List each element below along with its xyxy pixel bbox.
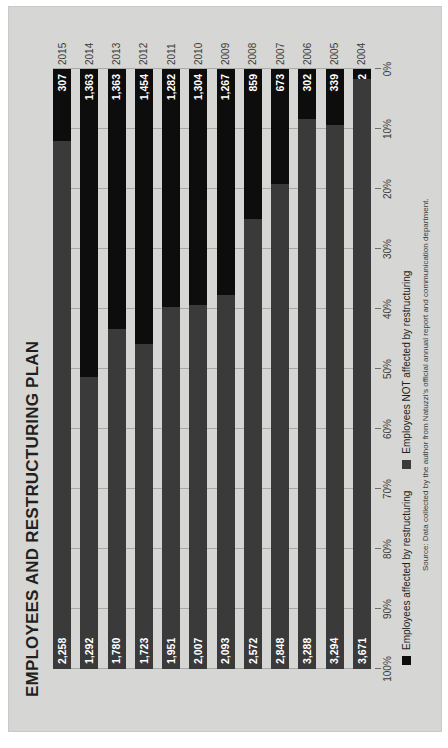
bar-segment-not-affected: 1,292 (80, 377, 98, 669)
year-label: 2014 (80, 31, 98, 65)
axis-tick-label: 50% (382, 359, 393, 379)
legend: Employees affected by restructuringEmplo… (401, 271, 412, 665)
bar-row: 1,2921,363 (80, 69, 98, 669)
bar-segment-not-affected: 3,294 (326, 125, 344, 669)
bar-value-label: 2,093 (220, 638, 231, 664)
bar-rows: 2,2583071,2921,3631,7801,3631,7231,4541,… (53, 69, 371, 669)
bar-row: 3,294339 (326, 69, 344, 669)
bar-segment-not-affected: 2,258 (53, 141, 71, 669)
axis-tick (375, 188, 381, 189)
chart-page: EMPLOYEES AND RESTRUCTURING PLAN 2,25830… (0, 0, 448, 748)
bar-row: 2,258307 (53, 69, 71, 669)
bar-value-label: 1,363 (84, 74, 95, 100)
bar-row: 2,572859 (244, 69, 262, 669)
bar-segment-not-affected: 3,288 (298, 119, 316, 669)
year-label: 2005 (326, 31, 344, 65)
axis-tick (375, 488, 381, 489)
year-label: 2008 (244, 31, 262, 65)
bar-segment-affected: 1,363 (80, 69, 98, 377)
bar-segment-affected: 1,282 (162, 69, 180, 307)
axis-tick-label: 40% (382, 299, 393, 319)
source-note: Source: Data collected by the author fro… (421, 198, 430, 571)
axis-tick-label: 100% (382, 656, 393, 682)
bar-segment-affected: 1,267 (217, 69, 235, 295)
bar-row: 1,7801,363 (108, 69, 126, 669)
percent-axis: 0%10%20%30%40%50%60%70%80%90%100% (375, 69, 401, 669)
axis-tick-label: 20% (382, 179, 393, 199)
bar-segment-affected: 1,304 (189, 69, 207, 305)
bar-value-label: 1,723 (139, 638, 150, 664)
year-label: 2009 (217, 31, 235, 65)
bar-segment-not-affected: 1,951 (162, 307, 180, 669)
axis-tick (375, 548, 381, 549)
bar-value-label: 1,292 (84, 638, 95, 664)
bar-segment-affected: 62 (353, 69, 371, 79)
year-label: 2012 (135, 31, 153, 65)
axis-tick (375, 248, 381, 249)
bar-value-label: 3,671 (357, 638, 368, 664)
legend-swatch-icon (402, 656, 411, 665)
year-label: 2011 (162, 31, 180, 65)
axis-tick-label: 0% (382, 62, 393, 76)
bar-row: 3,67162 (353, 69, 371, 669)
bar-segment-not-affected: 2,093 (217, 295, 235, 669)
axis-tick-label: 80% (382, 539, 393, 559)
bar-value-label: 3,288 (302, 638, 313, 664)
bar-segment-not-affected: 2,572 (244, 219, 262, 669)
chart-panel: EMPLOYEES AND RESTRUCTURING PLAN 2,25830… (8, 6, 442, 732)
axis-tick-label: 10% (382, 119, 393, 139)
bar-segment-affected: 673 (271, 69, 289, 184)
bar-segment-not-affected: 1,723 (135, 344, 153, 669)
bar-row: 1,7231,454 (135, 69, 153, 669)
axis-tick (375, 368, 381, 369)
axis-tick-label: 60% (382, 419, 393, 439)
year-label: 2007 (271, 31, 289, 65)
plot-area: 2,2583071,2921,3631,7801,3631,7231,4541,… (53, 69, 371, 669)
year-axis: 2015201420132012201120102009200820072006… (53, 31, 371, 65)
bar-value-label: 2,007 (193, 638, 204, 664)
year-label: 2006 (298, 31, 316, 65)
bar-row: 2,0071,304 (189, 69, 207, 669)
axis-tick (375, 668, 381, 669)
axis-tick (375, 128, 381, 129)
bar-value-label: 307 (57, 74, 68, 92)
axis-tick (375, 308, 381, 309)
legend-item[interactable]: Employees NOT affected by restructuring (401, 271, 412, 469)
bar-value-label: 3,294 (329, 638, 340, 664)
axis-tick-label: 30% (382, 239, 393, 259)
bar-value-label: 1,363 (111, 74, 122, 100)
bar-value-label: 1,454 (139, 74, 150, 100)
bar-row: 2,848673 (271, 69, 289, 669)
bar-value-label: 2,848 (275, 638, 286, 664)
bar-row: 1,9511,282 (162, 69, 180, 669)
bar-segment-not-affected: 3,671 (353, 79, 371, 669)
bar-value-label: 2,258 (57, 638, 68, 664)
bar-segment-not-affected: 2,848 (271, 184, 289, 669)
bar-value-label: 1,304 (193, 74, 204, 100)
year-label: 2004 (353, 31, 371, 65)
year-label: 2013 (108, 31, 126, 65)
year-label: 2010 (189, 31, 207, 65)
axis-tick-label: 90% (382, 599, 393, 619)
chart-rotation-stage: EMPLOYEES AND RESTRUCTURING PLAN 2,25830… (9, 7, 441, 731)
bar-value-label: 1,951 (166, 638, 177, 664)
bar-value-label: 1,780 (111, 638, 122, 664)
bar-segment-not-affected: 1,780 (108, 329, 126, 669)
bar-value-label: 339 (329, 74, 340, 92)
legend-label: Employees NOT affected by restructuring (401, 271, 412, 454)
legend-label: Employees affected by restructuring (401, 491, 412, 650)
legend-item[interactable]: Employees affected by restructuring (401, 491, 412, 665)
bar-segment-not-affected: 2,007 (189, 305, 207, 669)
year-label: 2015 (53, 31, 71, 65)
bar-value-label: 62 (357, 74, 368, 79)
bar-value-label: 859 (248, 74, 259, 92)
axis-tick (375, 68, 381, 69)
bar-value-label: 1,267 (220, 74, 231, 100)
bar-segment-affected: 302 (298, 69, 316, 119)
bar-segment-affected: 1,454 (135, 69, 153, 344)
bar-value-label: 2,572 (248, 638, 259, 664)
bar-value-label: 1,282 (166, 74, 177, 100)
bar-value-label: 673 (275, 74, 286, 92)
page-title: EMPLOYEES AND RESTRUCTURING PLAN (23, 37, 43, 697)
bar-segment-affected: 1,363 (108, 69, 126, 329)
